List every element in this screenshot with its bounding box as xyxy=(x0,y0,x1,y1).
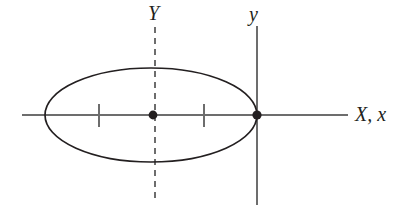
diagram-canvas xyxy=(0,0,409,218)
body-y-axis-label: Y xyxy=(148,3,159,23)
ellipse-diagram: Y y X, x xyxy=(0,0,409,218)
contact-point-dot xyxy=(252,110,261,119)
center-point-dot xyxy=(149,111,158,120)
space-y-axis-label: y xyxy=(249,4,258,24)
horizontal-axis-label: X, x xyxy=(355,104,386,124)
